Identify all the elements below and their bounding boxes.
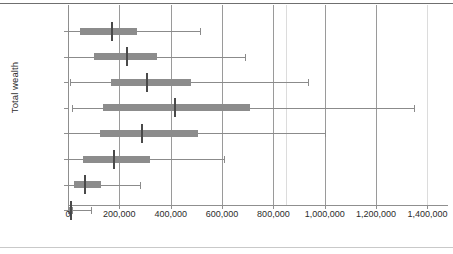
- gridline: [273, 5, 274, 205]
- whisker-cap-low: [68, 156, 69, 163]
- plot-area: [68, 5, 448, 205]
- median-marker: [126, 47, 128, 66]
- box-iqr: [80, 28, 136, 35]
- y-axis-tick: [64, 82, 68, 83]
- median-marker: [111, 22, 113, 41]
- median-marker: [141, 124, 143, 143]
- median-marker: [84, 175, 86, 194]
- x-axis-tick-label: 200,000: [103, 209, 136, 219]
- whisker-cap-low: [68, 54, 69, 61]
- y-axis-title: Total wealth: [9, 28, 20, 148]
- top-divider-rule: [0, 3, 453, 4]
- whisker-cap-low: [70, 79, 71, 86]
- x-axis-tick-label: 1,200,000: [356, 209, 396, 219]
- y-axis-line: [68, 5, 69, 205]
- x-axis-tick-label: 600,000: [206, 209, 239, 219]
- whisker-cap-high: [308, 79, 309, 86]
- gridline: [376, 5, 377, 205]
- median-marker: [174, 98, 176, 117]
- whisker-cap-high: [200, 28, 201, 35]
- whisker-cap-high: [325, 130, 326, 137]
- box-iqr: [100, 130, 199, 137]
- y-axis-tick: [64, 108, 68, 109]
- median-marker: [146, 73, 148, 92]
- x-axis-tick-label: 800,000: [257, 209, 290, 219]
- bottom-divider-rule: [0, 247, 453, 248]
- median-marker: [113, 150, 115, 169]
- box-iqr: [103, 104, 250, 111]
- box-iqr: [111, 79, 191, 86]
- x-axis-line: [68, 205, 448, 206]
- x-axis-tick-label: 1,400,000: [407, 209, 447, 219]
- whisker-cap-high: [91, 207, 92, 214]
- gridline-faint: [427, 5, 428, 205]
- gridline-faint: [286, 5, 287, 205]
- gridline: [325, 5, 326, 205]
- x-axis-tick-label: 0: [65, 209, 70, 219]
- box-iqr: [74, 181, 101, 188]
- x-axis-tick-label: 1,000,000: [305, 209, 345, 219]
- whisker-cap-high: [224, 156, 225, 163]
- whisker-cap-high: [245, 54, 246, 61]
- whisker-cap-low: [68, 130, 69, 137]
- box-iqr: [83, 156, 150, 163]
- x-axis-tick-label: 400,000: [154, 209, 187, 219]
- whisker-cap-high: [414, 105, 415, 112]
- whisker-cap-low: [72, 105, 73, 112]
- whisker-cap-high: [140, 182, 141, 189]
- whisker-cap-low: [68, 28, 69, 35]
- whisker-cap-low: [68, 182, 69, 189]
- box-plot-chart: Total wealth 85+75-8465-7455-6445-5435-4…: [0, 0, 453, 254]
